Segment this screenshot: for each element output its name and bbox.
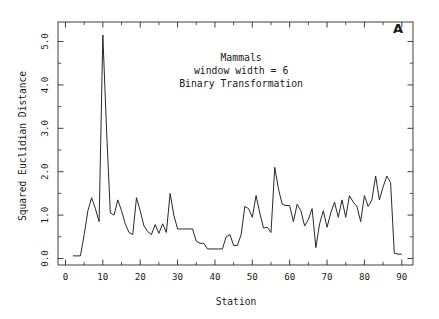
x-tick-label: 10: [97, 271, 108, 282]
x-tick-label: 60: [284, 271, 295, 282]
y-tick-label: 4.0: [39, 77, 50, 94]
x-tick-label: 70: [322, 271, 333, 282]
y-tick-label: 3.0: [39, 120, 50, 137]
annotation-line-window-width: window width = 6: [194, 65, 288, 76]
y-tick-label: 1.0: [39, 207, 50, 224]
annotation-line-title: Mammals: [220, 52, 261, 63]
y-axis-title: Squared Euclidian Distance: [17, 71, 28, 221]
x-tick-label: 40: [209, 271, 220, 282]
annotation-line-transformation: Binary Transformation: [179, 78, 303, 89]
x-tick-label: 50: [247, 271, 258, 282]
x-axis-title: Station: [216, 296, 256, 307]
y-tick-label: 2.0: [39, 163, 50, 180]
panel-label-a: A: [393, 21, 403, 36]
y-tick-label: 0.0: [39, 250, 50, 267]
x-tick-label: 90: [396, 271, 407, 282]
figure-panel-a: 0102030405060708090 0.01.02.03.04.05.0 S…: [0, 0, 439, 319]
x-tick-label: 0: [63, 271, 69, 282]
y-tick-label: 5.0: [39, 33, 50, 50]
x-tick-label: 20: [135, 271, 146, 282]
x-tick-label: 30: [172, 271, 183, 282]
x-axis-tick-labels: 0102030405060708090: [63, 271, 408, 282]
x-tick-label: 80: [359, 271, 370, 282]
y-axis-tick-labels: 0.01.02.03.04.05.0: [39, 33, 50, 267]
chart-canvas: 0102030405060708090 0.01.02.03.04.05.0 S…: [0, 0, 439, 319]
